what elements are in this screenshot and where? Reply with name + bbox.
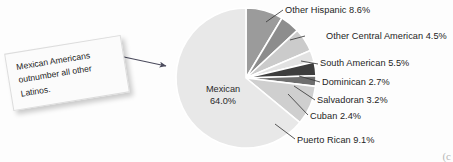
slice-inner-label-mexican: Mexican 64.0% [192, 84, 254, 107]
pie-chart-figure: Mexican Americans outnumber all other La… [0, 0, 453, 162]
slice-inner-label-mexican-name: Mexican [192, 84, 254, 96]
slice-label-other-central-american: Other Central American 4.5% [326, 31, 447, 41]
slice-label-dominican: Dominican 2.7% [322, 77, 390, 87]
slice-label-cuban: Cuban 2.4% [310, 111, 361, 121]
slice-label-salvadoran: Salvadoran 3.2% [317, 95, 388, 105]
corner-mark: (c [442, 151, 451, 162]
slice-label-other-hispanic: Other Hispanic 8.6% [285, 5, 370, 15]
callout-arrow [124, 57, 166, 66]
slice-label-south-american: South American 5.5% [320, 58, 409, 68]
slice-inner-label-mexican-percent: 64.0% [192, 96, 254, 108]
slice-label-puerto-rican: Puerto Rican 9.1% [297, 135, 374, 145]
callout-note-text: Mexican Americans outnumber all other La… [15, 45, 122, 101]
